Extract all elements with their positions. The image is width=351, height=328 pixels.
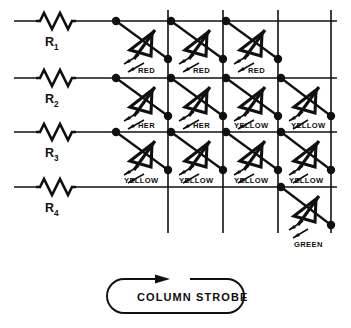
led-r4c4: GREEN [277, 183, 335, 249]
led-matrix-diagram: R 1 R 2 R 3 R 4 [0, 0, 351, 328]
led-label-r2c1: HER [138, 121, 155, 130]
led-r3c2: YELLOW [167, 128, 227, 185]
led-r2c4: YELLOW [277, 74, 335, 130]
resistor-label-2: R 2 [45, 92, 59, 109]
resistor-label-4: R 4 [45, 201, 59, 218]
node-dot [219, 55, 227, 63]
led-label-r3c3: YELLOW [234, 176, 269, 185]
led-r1c3: RED [222, 17, 282, 75]
led-label-r1c2: RED [193, 66, 210, 75]
resistor-label-3-text: R [45, 146, 54, 160]
node-dot [327, 221, 335, 229]
led-r1c2: RED [167, 17, 227, 75]
node-dot [327, 112, 335, 120]
column-strobe-loop: COLUMN STROBE [107, 275, 248, 314]
led-r2c1: HER [112, 74, 172, 130]
led-label-r4c4: GREEN [294, 240, 323, 249]
resistor-label-4-subscript: 4 [54, 209, 59, 218]
resistor-label-2-subscript: 2 [54, 100, 59, 109]
led-r3c1: YELLOW [112, 128, 172, 185]
node-dot [219, 112, 227, 120]
emission-arrows [289, 221, 308, 238]
resistor-label-3-subscript: 3 [54, 154, 59, 163]
row-group-1 [14, 13, 337, 29]
node-dot [274, 112, 282, 120]
resistor-label-1: R 1 [45, 35, 59, 52]
led-r3c3: YELLOW [222, 128, 282, 185]
node-dot [164, 166, 172, 174]
led-label-r3c4: YELLOW [289, 176, 324, 185]
resistor-label-3: R 3 [45, 146, 59, 163]
resistor-label-2-text: R [45, 92, 54, 106]
resistor-label-4-text: R [45, 201, 54, 215]
led-label-r2c3: YELLOW [234, 121, 269, 130]
led-r3c4: YELLOW [277, 128, 335, 185]
led-label-r1c1: RED [138, 66, 155, 75]
led-r2c3: YELLOW [222, 74, 282, 130]
led-r2c2: HER [167, 74, 227, 130]
led-r1c1: RED [112, 17, 172, 75]
column-strobe-label: COLUMN STROBE [137, 291, 248, 303]
node-dot [274, 166, 282, 174]
strobe-arrow-head [155, 275, 170, 284]
node-dot [164, 112, 172, 120]
led-label-r3c2: YELLOW [179, 176, 214, 185]
node-dot [274, 55, 282, 63]
node-dot [164, 55, 172, 63]
led-label-r3c1: YELLOW [124, 176, 159, 185]
resistor-label-1-text: R [45, 35, 54, 49]
node-dot [327, 166, 335, 174]
node-dot [219, 166, 227, 174]
led-label-r1c3: RED [248, 66, 265, 75]
resistor-label-1-subscript: 1 [54, 43, 59, 52]
led-label-r2c2: HER [193, 121, 210, 130]
led-label-r2c4: YELLOW [291, 121, 326, 130]
